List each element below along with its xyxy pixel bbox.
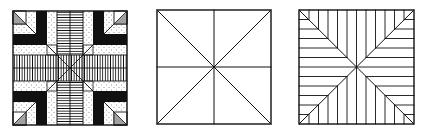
patterned-block [11, 9, 129, 127]
line-block-drawing [297, 8, 416, 126]
patterned-block-drawing [11, 9, 129, 127]
line-block [297, 8, 416, 126]
divided-square [155, 8, 273, 126]
divided-square-drawing [155, 8, 273, 126]
center-diagonals [13, 11, 127, 125]
